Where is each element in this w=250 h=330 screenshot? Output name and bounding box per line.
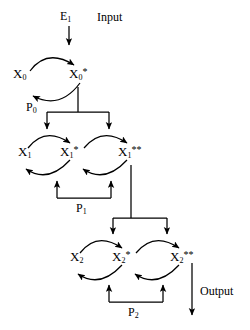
arrow-x0-to-x0star <box>30 58 74 71</box>
node-x1-sub: 1 <box>27 151 31 160</box>
node-x2-star: X2* <box>112 250 130 263</box>
node-x1-star-base: X <box>60 144 69 159</box>
enzyme-e1-sub: 1 <box>67 15 71 24</box>
phosphatase-p2-sub: 2 <box>135 311 139 320</box>
arrow-x1star-to-x1 <box>26 160 70 175</box>
node-x1-star: X1* <box>60 145 78 158</box>
phosphatase-p0-sub: 0 <box>33 106 37 115</box>
node-x2-star-base: X <box>112 249 121 264</box>
label-output: Output <box>200 285 233 297</box>
node-x2-starstar-sup: ** <box>183 249 193 260</box>
label-phosphatase-p1: P1 <box>76 202 87 214</box>
phosphatase-p1-base: P <box>76 201 83 215</box>
label-enzyme-e1: E1 <box>60 10 71 22</box>
node-x1-starstar-base: X <box>118 144 127 159</box>
node-x2-base: X <box>70 249 79 264</box>
arrow-x2star-to-x2 <box>78 265 122 280</box>
label-phosphatase-p0: P0 <box>26 101 37 113</box>
node-x2-sub: 2 <box>79 256 83 265</box>
arrow-x1starstar-to-x1star <box>83 160 127 175</box>
node-x0-base: X <box>13 66 22 81</box>
node-x0-star: X0* <box>69 67 87 80</box>
label-input: Input <box>97 11 122 23</box>
phosphatase-p1-sub: 1 <box>83 207 87 216</box>
node-x0: X0 <box>13 67 26 80</box>
node-x1-starstar-sup: ** <box>131 144 141 155</box>
node-x0-sub: 0 <box>22 73 26 82</box>
diagram-vector-layer <box>0 0 250 330</box>
node-x1-starstar: X1** <box>118 145 141 158</box>
node-x2-starstar-base: X <box>170 249 179 264</box>
node-x1-star-sup: * <box>73 144 78 155</box>
arrow-x2starstar-to-x2star <box>135 265 179 280</box>
label-phosphatase-p2: P2 <box>128 306 139 318</box>
node-x1: X1 <box>18 145 31 158</box>
node-x2-star-sup: * <box>125 249 130 260</box>
node-x1-base: X <box>18 144 27 159</box>
arrow-x0star-to-x0 <box>33 83 80 101</box>
node-x2-starstar: X2** <box>170 250 193 263</box>
phosphatase-p2-base: P <box>128 305 135 319</box>
node-x2: X2 <box>70 250 83 263</box>
node-x0-star-sup: * <box>82 66 87 77</box>
phosphatase-p0-base: P <box>26 100 33 114</box>
diagram-canvas: E1 Input X0 X0* P0 X1 X1* X1** P1 X2 X2*… <box>0 0 250 330</box>
node-x0-star-base: X <box>69 66 78 81</box>
